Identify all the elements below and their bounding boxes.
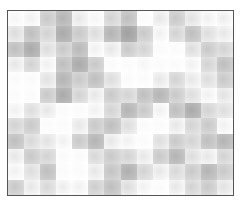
texture-block: [40, 149, 57, 165]
texture-block: [104, 42, 121, 58]
texture-block: [24, 26, 41, 42]
texture-block: [88, 11, 105, 27]
texture-block: [40, 180, 57, 196]
texture-block: [201, 57, 218, 73]
texture-block: [169, 11, 186, 27]
texture-block: [88, 42, 105, 58]
texture-block: [137, 180, 154, 196]
texture-block: [217, 11, 234, 27]
texture-block: [40, 72, 57, 88]
texture-block: [185, 26, 202, 42]
texture-block: [8, 88, 25, 104]
texture-block: [185, 88, 202, 104]
texture-block: [56, 11, 73, 27]
texture-block: [153, 88, 170, 104]
texture-block: [104, 57, 121, 73]
texture-block: [56, 57, 73, 73]
texture-block: [153, 134, 170, 150]
texture-block: [40, 134, 57, 150]
texture-block: [104, 164, 121, 180]
texture-block: [217, 88, 234, 104]
texture-block: [56, 118, 73, 134]
texture-block: [185, 103, 202, 119]
texture-block: [56, 164, 73, 180]
texture-block: [121, 57, 138, 73]
texture-block: [217, 57, 234, 73]
texture-block: [185, 164, 202, 180]
texture-block: [88, 57, 105, 73]
texture-block: [201, 42, 218, 58]
texture-block: [201, 11, 218, 27]
texture-block: [137, 118, 154, 134]
texture-block: [88, 134, 105, 150]
texture-block: [121, 26, 138, 42]
texture-block: [88, 164, 105, 180]
texture-block: [72, 26, 89, 42]
texture-block: [201, 118, 218, 134]
texture-block: [88, 72, 105, 88]
texture-block: [72, 103, 89, 119]
texture-block: [8, 72, 25, 88]
texture-block: [8, 42, 25, 58]
texture-block: [24, 118, 41, 134]
texture-block: [153, 57, 170, 73]
texture-block: [56, 103, 73, 119]
texture-block: [201, 180, 218, 196]
texture-block: [104, 26, 121, 42]
texture-block: [185, 134, 202, 150]
texture-block: [8, 118, 25, 134]
texture-block: [217, 164, 234, 180]
texture-block: [137, 149, 154, 165]
texture-block: [8, 180, 25, 196]
texture-block: [217, 26, 234, 42]
texture-block: [24, 180, 41, 196]
texture-block: [153, 164, 170, 180]
texture-block: [104, 72, 121, 88]
texture-block: [169, 164, 186, 180]
texture-block: [169, 180, 186, 196]
texture-block: [88, 26, 105, 42]
texture-block: [24, 72, 41, 88]
texture-block: [217, 134, 234, 150]
texture-block: [169, 26, 186, 42]
texture-block: [56, 88, 73, 104]
texture-block: [185, 118, 202, 134]
texture-block: [137, 103, 154, 119]
texture-block: [137, 134, 154, 150]
texture-block: [153, 26, 170, 42]
texture-block: [217, 103, 234, 119]
texture-block: [137, 164, 154, 180]
texture-block: [104, 134, 121, 150]
texture-block: [40, 164, 57, 180]
texture-block: [169, 88, 186, 104]
texture-block: [185, 180, 202, 196]
texture-block: [88, 88, 105, 104]
texture-block: [121, 134, 138, 150]
texture-block: [104, 103, 121, 119]
texture-block: [24, 57, 41, 73]
texture-block: [137, 26, 154, 42]
texture-block: [56, 26, 73, 42]
texture-block: [153, 180, 170, 196]
texture-block: [8, 103, 25, 119]
texture-block: [104, 11, 121, 27]
texture-block: [169, 149, 186, 165]
texture-block: [153, 103, 170, 119]
texture-block: [8, 11, 25, 27]
texture-block: [121, 180, 138, 196]
texture-block: [56, 72, 73, 88]
texture-block: [104, 88, 121, 104]
texture-block: [185, 42, 202, 58]
texture-block: [201, 149, 218, 165]
texture-block: [169, 42, 186, 58]
texture-block: [217, 149, 234, 165]
texture-block: [185, 11, 202, 27]
texture-block: [8, 149, 25, 165]
texture-block: [201, 26, 218, 42]
texture-block: [137, 88, 154, 104]
texture-block: [72, 149, 89, 165]
texture-block: [121, 103, 138, 119]
texture-block: [153, 149, 170, 165]
texture-block: [72, 72, 89, 88]
texture-block: [217, 72, 234, 88]
